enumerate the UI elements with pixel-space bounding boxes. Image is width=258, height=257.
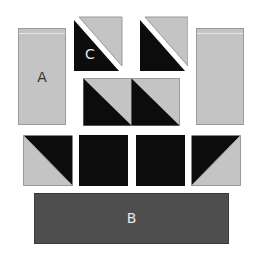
lower-hst-left xyxy=(23,135,73,186)
piece-right-rect xyxy=(196,28,244,125)
piece-c-label: C xyxy=(80,46,100,62)
piece-b: B xyxy=(34,193,229,244)
piece-a: A xyxy=(18,28,66,125)
lower-dark-square-1 xyxy=(79,135,128,186)
lower-dark-square-2 xyxy=(136,135,185,186)
piece-split-square xyxy=(134,16,188,72)
lower-hst-right xyxy=(191,135,241,186)
middle-hst-2 xyxy=(131,78,180,126)
piece-a-label: A xyxy=(19,69,65,85)
piece-b-label: B xyxy=(35,210,228,226)
middle-hst-1 xyxy=(83,78,132,126)
piece-c-split-square xyxy=(73,16,123,72)
